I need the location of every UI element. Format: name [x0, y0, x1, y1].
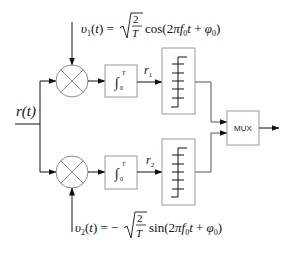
svg-text:cos(2πf0t + φ0): cos(2πf0t + φ0): [145, 21, 220, 38]
branch-1: υ1(t) = 2 T cos(2πf0t + φ0) ∫ T 0 r1: [56, 13, 227, 122]
svg-text:υ2(t) = −: υ2(t) = −: [75, 220, 118, 237]
reference-equation-1: υ1(t) = 2 T cos(2πf0t + φ0): [81, 13, 220, 39]
integrator-1: ∫ T 0: [105, 65, 137, 97]
svg-text:2: 2: [133, 13, 139, 25]
integrator-2: ∫ T 0: [105, 156, 137, 189]
svg-text:0: 0: [120, 176, 123, 182]
arrow-to-mux-2: [195, 133, 227, 172]
svg-text:sin(2πf0t + φ0): sin(2πf0t + φ0): [149, 220, 222, 237]
svg-text:T: T: [136, 227, 143, 239]
mux-label: MUX: [234, 124, 252, 133]
svg-text:υ1(t) =: υ1(t) =: [81, 21, 114, 38]
output-label-r2: r2: [146, 153, 155, 169]
multiplier-2: [56, 156, 88, 188]
svg-text:2: 2: [137, 212, 143, 224]
svg-text:0: 0: [120, 85, 123, 91]
mux-block: MUX: [227, 111, 259, 145]
arrow-to-mux-1: [195, 82, 227, 122]
reference-equation-2: υ2(t) = − 2 T sin(2πf0t + φ0): [75, 212, 222, 239]
sampler-2: [162, 139, 195, 205]
block-diagram: r(t) υ1(t) = 2 T cos(2πf0t + φ0): [0, 0, 292, 258]
branch-2: ∫ T 0 r2 υ2(t) = − 2 T sin(2πf0t: [56, 133, 227, 239]
input-signal: r(t): [15, 81, 56, 172]
multiplier-1: [56, 65, 88, 97]
input-label: r(t): [16, 103, 36, 120]
svg-text:T: T: [132, 27, 139, 39]
output-label-r1: r1: [144, 63, 153, 79]
sampler-1: [162, 48, 195, 114]
